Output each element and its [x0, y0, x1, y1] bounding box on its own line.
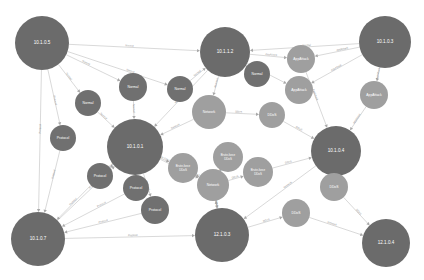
graph-node-b1[interactable]: Brute-forceDDoS [168, 153, 198, 183]
edge-label: AppAttack [336, 46, 349, 52]
edge-label: DDoS [355, 208, 363, 216]
graph-edge: DDoS [248, 216, 283, 227]
graph-node-d2[interactable]: DDoS [320, 173, 348, 201]
graph-node-a2[interactable]: AppAttack [285, 76, 313, 104]
node-circle[interactable] [311, 126, 361, 176]
edge-label: Protocol [52, 95, 58, 106]
graph-edge: Protocol [44, 151, 60, 213]
graph-node-n4[interactable]: Normal [244, 61, 270, 87]
graph-node-n5[interactable]: Protocol [50, 125, 76, 151]
edge-arrowhead [58, 122, 61, 125]
graph-node-h7[interactable]: 12.1.0.3 [195, 208, 249, 262]
graph-edge: Protocol [65, 233, 195, 238]
graph-node-h4[interactable]: 10.1.0.1 [107, 119, 163, 175]
graph-node-h8[interactable]: 12.1.0.4 [362, 219, 410, 267]
graph-node-b3[interactable]: Brute-forceDDoS [243, 157, 273, 187]
graph-edge: Normal [190, 68, 206, 81]
node-circle[interactable] [282, 199, 310, 227]
node-circle[interactable] [360, 81, 388, 109]
node-circle[interactable] [167, 76, 193, 102]
edge-label: Network [283, 180, 294, 189]
edge-arrowhead [37, 209, 40, 212]
edge-arrowhead [309, 157, 312, 160]
node-circle[interactable] [287, 45, 315, 73]
edge-label: Network [213, 77, 219, 88]
graph-node-h6[interactable]: 10.1.0.7 [11, 212, 65, 266]
edge-label: AppAttack [265, 52, 278, 57]
edge-arrowhead [132, 116, 135, 119]
node-circle[interactable] [75, 90, 101, 116]
edge-arrowhead [284, 56, 287, 59]
node-circle[interactable] [141, 196, 169, 224]
node-circle[interactable] [200, 27, 250, 77]
graph-node-a1[interactable]: AppAttack [287, 45, 315, 73]
node-circle[interactable] [15, 16, 69, 70]
graph-node-h2[interactable]: 10.1.1.2 [200, 27, 250, 77]
edge-label: DDoS [295, 125, 303, 132]
graph-edge: AppAttack [375, 67, 381, 82]
edge-arrowhead [350, 127, 353, 130]
graph-edge: DDoS [226, 109, 259, 116]
edge-arrowhead [279, 216, 282, 219]
edge-label: Normal [99, 111, 108, 120]
graph-node-n2[interactable]: Normal [75, 90, 101, 116]
edge-label: DDoS [231, 174, 239, 180]
graph-node-a3[interactable]: AppAttack [360, 81, 388, 109]
node-circle[interactable] [320, 173, 348, 201]
graph-node-n3[interactable]: Normal [167, 76, 193, 102]
edge-label: Protocol [128, 233, 138, 237]
graph-edge: Normal [69, 43, 200, 52]
edge-arrowhead [197, 49, 200, 52]
graph-node-h1[interactable]: 10.1.0.5 [15, 16, 69, 70]
edge-arrowhead [44, 209, 47, 212]
node-circle[interactable] [107, 119, 163, 175]
edge-label: DDoS [285, 159, 293, 165]
edge-arrowhead [250, 49, 253, 52]
graph-edge: Protocol [48, 69, 61, 125]
edge-label: AppAttack [375, 67, 381, 80]
graph-node-n8[interactable]: Protocol [141, 196, 169, 224]
graph-node-w2[interactable]: Network [197, 169, 229, 201]
graph-edge: Protocol [62, 194, 125, 227]
graph-node-w1[interactable]: Network [192, 95, 226, 129]
node-circle[interactable] [362, 219, 410, 267]
node-layer: 10.1.0.510.1.1.210.1.0.310.1.0.110.1.0.4… [11, 16, 411, 267]
edge-label: Normal [132, 104, 136, 113]
graph-edge: Network [213, 76, 220, 95]
edge-arrowhead [77, 89, 80, 92]
network-graph-canvas: NormalNormalNormalNormalProtocolProtocol… [0, 0, 424, 280]
edge-arrowhead [240, 175, 243, 178]
node-circle[interactable] [123, 175, 149, 201]
node-circle[interactable] [195, 208, 249, 262]
node-circle[interactable] [259, 102, 285, 128]
node-circle[interactable] [285, 76, 313, 104]
edge-label: Protocol [96, 200, 107, 208]
graph-node-b2[interactable]: Brute-forceDDoS [213, 142, 243, 172]
graph-node-n6[interactable]: Protocol [87, 163, 113, 189]
node-circle[interactable] [192, 95, 226, 129]
edge-label: AppAttack [352, 112, 362, 125]
graph-node-n1[interactable]: Normal [119, 73, 147, 101]
graph-edge: Normal [58, 64, 80, 92]
node-circle[interactable] [244, 61, 270, 87]
node-circle[interactable] [213, 142, 243, 172]
graph-edge: Normal [132, 101, 136, 119]
node-circle[interactable] [87, 163, 113, 189]
graph-edge: AppAttack [311, 55, 362, 84]
node-circle[interactable] [50, 125, 76, 151]
graph-node-h5[interactable]: 10.1.0.4 [311, 126, 361, 176]
edge-label: Normal [65, 72, 74, 81]
node-circle[interactable] [11, 212, 65, 266]
node-circle[interactable] [119, 73, 147, 101]
node-circle[interactable] [243, 157, 273, 187]
graph-node-n7[interactable]: Protocol [123, 175, 149, 201]
node-circle[interactable] [168, 153, 198, 183]
graph-node-h3[interactable]: 10.1.0.3 [359, 16, 411, 68]
node-circle[interactable] [197, 169, 229, 201]
edge-label: Protocol [98, 218, 109, 224]
edge-arrowhead [202, 68, 205, 71]
graph-node-d1[interactable]: DDoS [259, 102, 285, 128]
graph-node-d3[interactable]: DDoS [282, 199, 310, 227]
edge-arrowhead [244, 216, 247, 219]
node-circle[interactable] [359, 16, 411, 68]
